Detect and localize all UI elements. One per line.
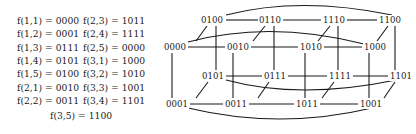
node-1010: 1010 (299, 42, 323, 52)
edge (377, 26, 388, 41)
edge (226, 80, 396, 90)
node-0001: 0001 (165, 99, 189, 109)
node-0011: 0011 (224, 99, 248, 109)
node-0010: 0010 (226, 42, 250, 52)
node-0100: 0100 (200, 15, 224, 25)
edge (226, 6, 392, 16)
node-1000: 1000 (363, 42, 387, 52)
node-1101: 1101 (389, 71, 413, 81)
edge (188, 108, 372, 119)
node-1100: 1100 (378, 15, 402, 25)
edge (384, 82, 395, 98)
edge (318, 26, 330, 41)
node-0000: 0000 (163, 42, 187, 52)
edge (253, 26, 265, 41)
edge (196, 82, 208, 98)
node-1011: 1011 (295, 99, 319, 109)
node-1111: 1111 (328, 71, 352, 81)
node-1110: 1110 (322, 15, 346, 25)
edge (258, 82, 269, 98)
node-0110: 0110 (258, 15, 282, 25)
node-1001: 1001 (359, 99, 383, 109)
node-0111: 0111 (263, 71, 287, 81)
node-0101: 0101 (201, 71, 225, 81)
